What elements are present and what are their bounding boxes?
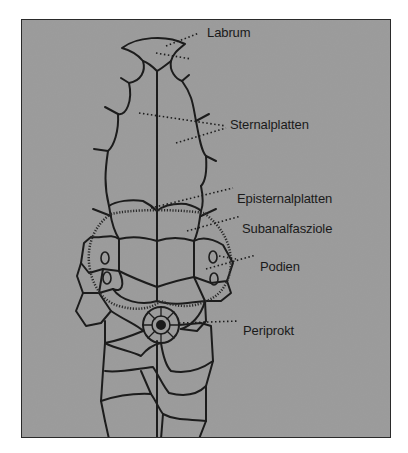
figure-frame: Labrum Sternalplatten Episternalplatten … [21,19,391,438]
label-labrum: Labrum [207,25,250,40]
label-podien: Podien [260,259,300,274]
label-sternalplatten: Sternalplatten [230,117,309,132]
label-episternalplatten: Episternalplatten [237,191,332,206]
label-periprokt: Periprokt [243,323,294,338]
label-subanalfasziole: Subanalfasziole [242,221,332,236]
sea-urchin-plastron-diagram [22,20,391,438]
